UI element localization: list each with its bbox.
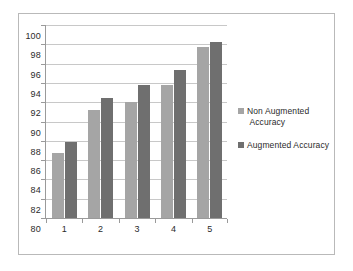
bar-non-augmented-accuracy-1 (52, 153, 64, 218)
y-axis-tick-label: 84 (31, 185, 41, 195)
plot-area (45, 25, 227, 218)
bar-augmented-accuracy-4 (174, 70, 186, 218)
x-axis-tick-label: 5 (207, 224, 212, 234)
chart-legend: Non Augmented AccuracyAugmented Accuracy (238, 106, 334, 163)
y-axis-tick-label: 90 (31, 128, 41, 138)
bar-non-augmented-accuracy-4 (161, 85, 173, 218)
x-axis-tick-mark (119, 219, 120, 223)
chart-figure: 80828486889092949698100 12345 Non Augmen… (18, 13, 335, 255)
y-axis-tick-label: 86 (31, 166, 41, 176)
bars-layer (46, 25, 227, 218)
x-axis-tick-mark (155, 219, 156, 223)
y-axis-tick-label: 100 (25, 31, 41, 41)
bar-non-augmented-accuracy-5 (197, 47, 209, 218)
y-axis-tick-label: 92 (31, 108, 41, 118)
x-axis-tick-label: 2 (98, 224, 103, 234)
bar-augmented-accuracy-1 (65, 142, 77, 218)
x-axis-tick-labels: 12345 (46, 224, 228, 238)
bar-non-augmented-accuracy-3 (125, 102, 137, 218)
x-axis-tick-mark (192, 219, 193, 223)
y-axis-tick-label: 98 (31, 50, 41, 60)
legend-entry[interactable]: Augmented Accuracy (238, 140, 334, 151)
bar-group (88, 25, 113, 218)
x-axis-tick-label: 1 (62, 224, 67, 234)
x-axis-tick-marks (46, 219, 228, 223)
bar-non-augmented-accuracy-2 (88, 110, 100, 218)
x-axis-tick-mark (227, 219, 228, 223)
bar-group (161, 25, 186, 218)
y-axis-tick-label: 96 (31, 70, 41, 80)
bar-group (125, 25, 150, 218)
bar-group (52, 25, 77, 218)
y-axis-tick-label: 88 (31, 147, 41, 157)
bar-augmented-accuracy-2 (101, 98, 113, 218)
legend-swatch-icon (238, 108, 244, 114)
x-axis-tick-label: 3 (134, 224, 139, 234)
x-axis-tick-mark (46, 219, 47, 223)
y-axis-tick-label: 82 (31, 205, 41, 215)
y-axis-tick-labels: 80828486889092949698100 (15, 25, 41, 218)
x-axis-tick-label: 4 (171, 224, 176, 234)
y-axis-tick-label: 80 (31, 224, 41, 234)
legend-label: Augmented Accuracy (247, 140, 329, 151)
legend-entry[interactable]: Non Augmented Accuracy (238, 106, 334, 128)
x-axis-tick-mark (82, 219, 83, 223)
bar-augmented-accuracy-3 (138, 85, 150, 218)
bar-group (197, 25, 222, 218)
legend-label: Non Augmented Accuracy (247, 106, 309, 128)
y-axis-tick-label: 94 (31, 89, 41, 99)
bar-augmented-accuracy-5 (210, 42, 222, 218)
legend-swatch-icon (238, 142, 244, 148)
